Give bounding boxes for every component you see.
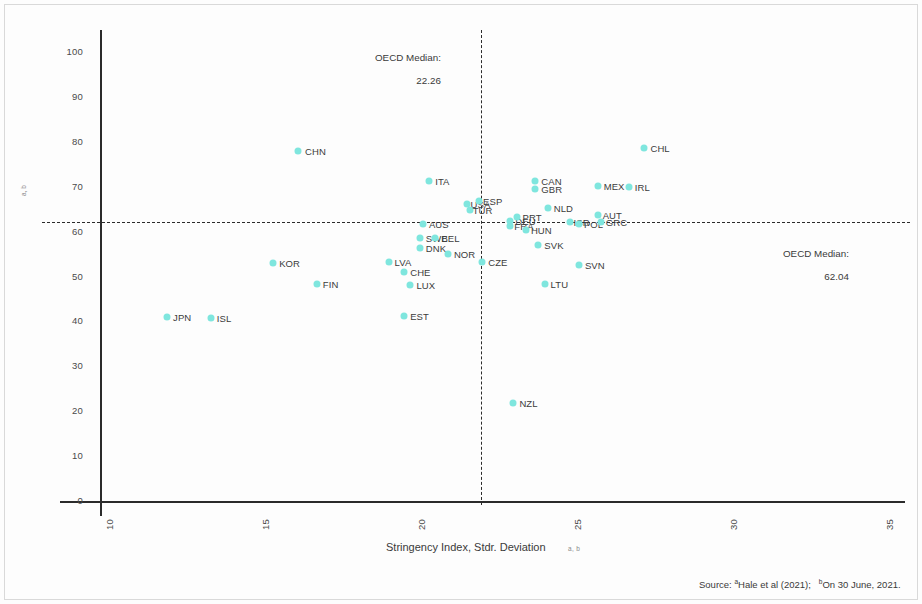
source-note: Source: aHale et al (2021); bOn 30 June,…	[699, 578, 901, 590]
y-tick-10: 10	[53, 450, 83, 461]
scatter-point-kor[interactable]	[270, 260, 277, 267]
scatter-label-che: CHE	[410, 267, 430, 278]
scatter-point-svk[interactable]	[535, 242, 542, 249]
scatter-chart-figure: 0102030405060708090100 101520253035 Stri…	[0, 0, 922, 604]
scatter-point-dnk[interactable]	[416, 244, 423, 251]
scatter-label-kor: KOR	[279, 258, 300, 269]
scatter-point-pol[interactable]	[575, 221, 582, 228]
scatter-label-ltu: LTU	[551, 279, 569, 290]
scatter-point-aus[interactable]	[419, 220, 426, 227]
scatter-point-che[interactable]	[401, 269, 408, 276]
oecd-median-horizontal-line	[42, 222, 910, 223]
x-axis-title-superscript: a, b	[568, 545, 580, 552]
scatter-label-chl: CHL	[650, 143, 669, 154]
scatter-label-can: CAN	[541, 176, 561, 187]
oecd-median-vertical-value: 22.26	[375, 75, 441, 86]
scatter-point-isr[interactable]	[566, 218, 573, 225]
y-tick-30: 30	[53, 360, 83, 371]
scatter-point-lux[interactable]	[407, 282, 414, 289]
y-tick-20: 20	[53, 405, 83, 416]
scatter-point-chl[interactable]	[641, 145, 648, 152]
scatter-label-nzl: NZL	[519, 398, 537, 409]
scatter-point-grc[interactable]	[597, 218, 604, 225]
oecd-median-vertical-annotation: OECD Median: 22.26	[375, 52, 441, 86]
source-reference-b: On 30 June, 2021.	[822, 579, 900, 590]
scatter-point-mex[interactable]	[594, 182, 601, 189]
scatter-label-cze: CZE	[488, 257, 507, 268]
scatter-label-hun: HUN	[531, 225, 552, 236]
scatter-label-grc: GRC	[606, 217, 627, 228]
scatter-point-isl[interactable]	[207, 314, 214, 321]
scatter-label-mex: MEX	[604, 181, 625, 192]
oecd-median-vertical-line	[481, 30, 482, 505]
scatter-point-prt[interactable]	[513, 214, 520, 221]
scatter-point-nzl[interactable]	[510, 400, 517, 407]
scatter-point-nld[interactable]	[544, 205, 551, 212]
y-tick-70: 70	[53, 181, 83, 192]
scatter-label-lva: LVA	[395, 257, 412, 268]
scatter-label-lux: LUX	[416, 280, 435, 291]
scatter-label-isl: ISL	[217, 313, 232, 324]
y-tick-0: 0	[53, 495, 83, 506]
y-tick-80: 80	[53, 136, 83, 147]
scatter-label-tur: TUR	[473, 205, 493, 216]
y-tick-40: 40	[53, 315, 83, 326]
x-tick-30: 30	[728, 519, 739, 530]
x-axis-line	[60, 501, 905, 503]
scatter-point-swe[interactable]	[416, 234, 423, 241]
y-axis-title-superscript: a, b	[20, 185, 27, 196]
oecd-median-horizontal-value: 62.04	[783, 271, 849, 282]
y-tick-50: 50	[53, 271, 83, 282]
y-tick-60: 60	[53, 226, 83, 237]
scatter-label-ita: ITA	[435, 176, 449, 187]
scatter-point-nor[interactable]	[444, 251, 451, 258]
scatter-label-irl: IRL	[635, 182, 650, 193]
scatter-point-ita[interactable]	[426, 177, 433, 184]
source-reference-a: Hale et al (2021);	[738, 579, 811, 590]
scatter-point-fin[interactable]	[313, 281, 320, 288]
scatter-label-dnk: DNK	[426, 243, 446, 254]
scatter-label-nor: NOR	[454, 249, 475, 260]
x-tick-15: 15	[260, 519, 271, 530]
scatter-point-can[interactable]	[532, 177, 539, 184]
scatter-label-chn: CHN	[305, 146, 326, 157]
scatter-point-jpn[interactable]	[164, 313, 171, 320]
scatter-label-svk: SVK	[544, 240, 563, 251]
oecd-median-horizontal-annotation: OECD Median: 62.04	[783, 248, 849, 282]
scatter-point-fra[interactable]	[507, 223, 514, 230]
y-tick-90: 90	[53, 91, 83, 102]
scatter-point-irl[interactable]	[625, 183, 632, 190]
x-tick-10: 10	[104, 519, 115, 530]
scatter-label-fin: FIN	[323, 279, 339, 290]
scatter-point-esp[interactable]	[476, 198, 483, 205]
scatter-point-chn[interactable]	[295, 147, 302, 154]
scatter-point-lva[interactable]	[385, 259, 392, 266]
scatter-label-svn: SVN	[585, 260, 605, 271]
scatter-point-hun[interactable]	[522, 226, 529, 233]
x-tick-25: 25	[572, 519, 583, 530]
scanned-page: 0102030405060708090100 101520253035 Stri…	[0, 0, 922, 604]
oecd-median-horizontal-title: OECD Median:	[783, 248, 849, 259]
scatter-label-aus: AUS	[429, 219, 449, 230]
scatter-label-est: EST	[410, 311, 429, 322]
scatter-label-nld: NLD	[554, 203, 573, 214]
x-tick-20: 20	[416, 519, 427, 530]
scatter-point-ltu[interactable]	[541, 280, 548, 287]
scatter-point-cze[interactable]	[479, 259, 486, 266]
scatter-point-est[interactable]	[401, 313, 408, 320]
source-prefix: Source:	[699, 579, 732, 590]
scatter-label-jpn: JPN	[173, 312, 191, 323]
y-tick-100: 100	[53, 46, 83, 57]
y-axis-line	[100, 30, 102, 516]
x-tick-35: 35	[884, 519, 895, 530]
x-axis-title-text: Stringency Index, Stdr. Deviation	[386, 541, 546, 553]
scatter-point-gbr[interactable]	[532, 186, 539, 193]
oecd-median-vertical-title: OECD Median:	[375, 52, 441, 63]
scatter-point-bel[interactable]	[432, 234, 439, 241]
scatter-point-svn[interactable]	[575, 261, 582, 268]
x-axis-title: Stringency Index, Stdr. Deviation	[386, 541, 546, 553]
